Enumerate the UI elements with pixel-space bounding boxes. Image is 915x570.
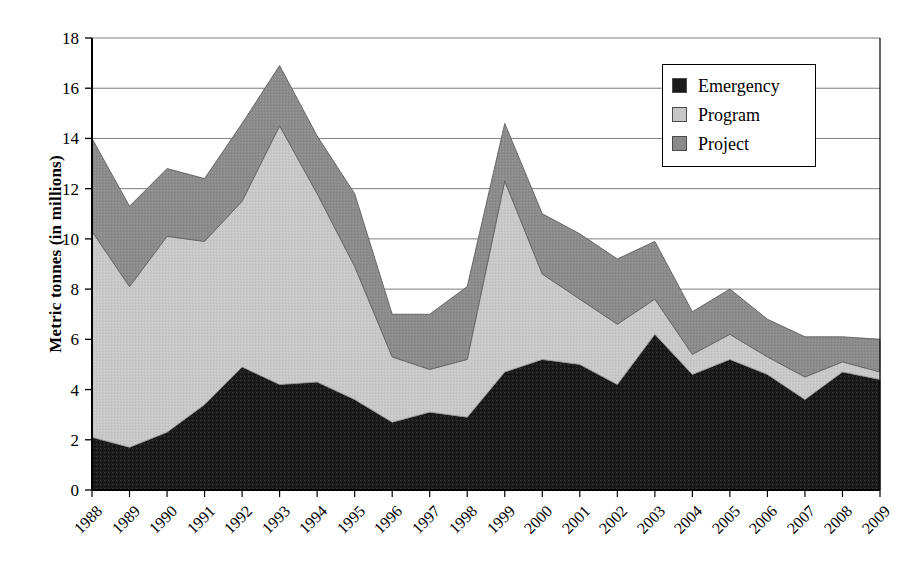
legend-label-program: Program: [698, 106, 760, 124]
y-tick-label: 18: [45, 30, 79, 47]
legend-swatch-project: [672, 136, 687, 151]
legend-item-emergency: Emergency: [672, 71, 803, 100]
y-tick-label: 2: [45, 432, 79, 449]
y-tick-label: 0: [45, 482, 79, 499]
legend-swatch-emergency: [672, 78, 687, 93]
y-tick-label: 8: [45, 281, 79, 298]
y-tick-label: 6: [45, 331, 79, 348]
y-tick-label: 12: [45, 181, 79, 198]
y-tick-label: 10: [45, 231, 79, 248]
legend-swatch-program: [672, 107, 687, 122]
y-tick-label: 4: [45, 382, 79, 399]
chart-legend: Emergency Program Project: [662, 64, 816, 167]
y-axis-title: Metric tonnes (in millions): [46, 104, 66, 404]
stacked-area-chart: Metric tonnes (in millions) 024681012141…: [0, 0, 915, 570]
legend-item-project: Project: [672, 129, 803, 158]
legend-label-emergency: Emergency: [698, 77, 780, 95]
y-tick-label: 16: [45, 80, 79, 97]
legend-label-project: Project: [698, 135, 749, 153]
legend-item-program: Program: [672, 100, 803, 129]
y-tick-label: 14: [45, 130, 79, 147]
